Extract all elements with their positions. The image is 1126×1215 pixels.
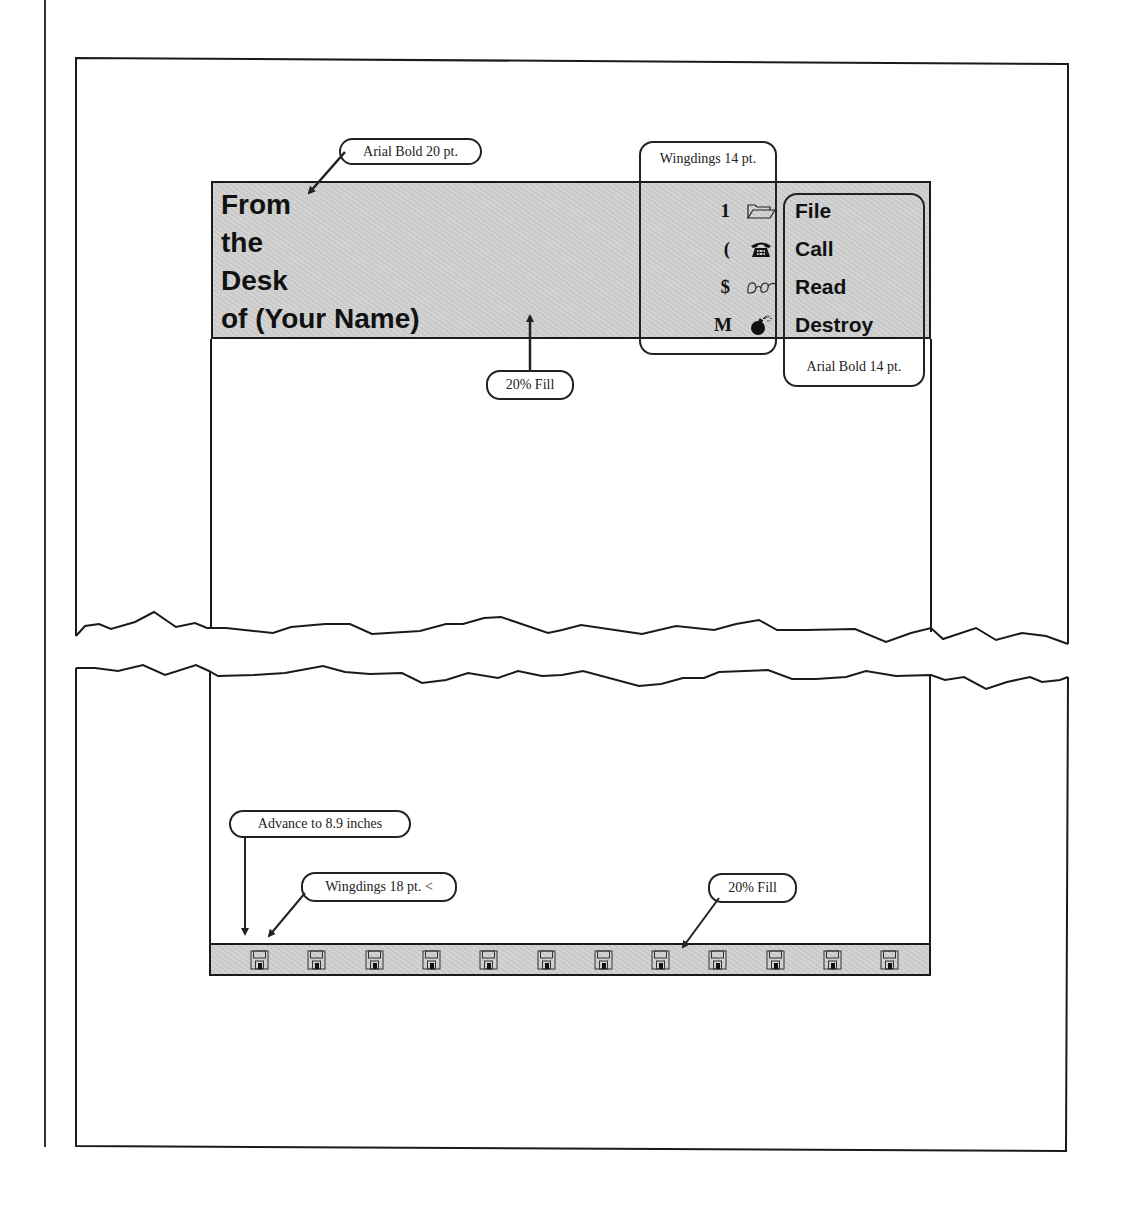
arrow-footer-wingdings [269,893,305,936]
arrow-footer-fill [683,898,719,947]
arrow-heading-font [309,152,345,193]
callout-arrows [0,0,1126,1215]
